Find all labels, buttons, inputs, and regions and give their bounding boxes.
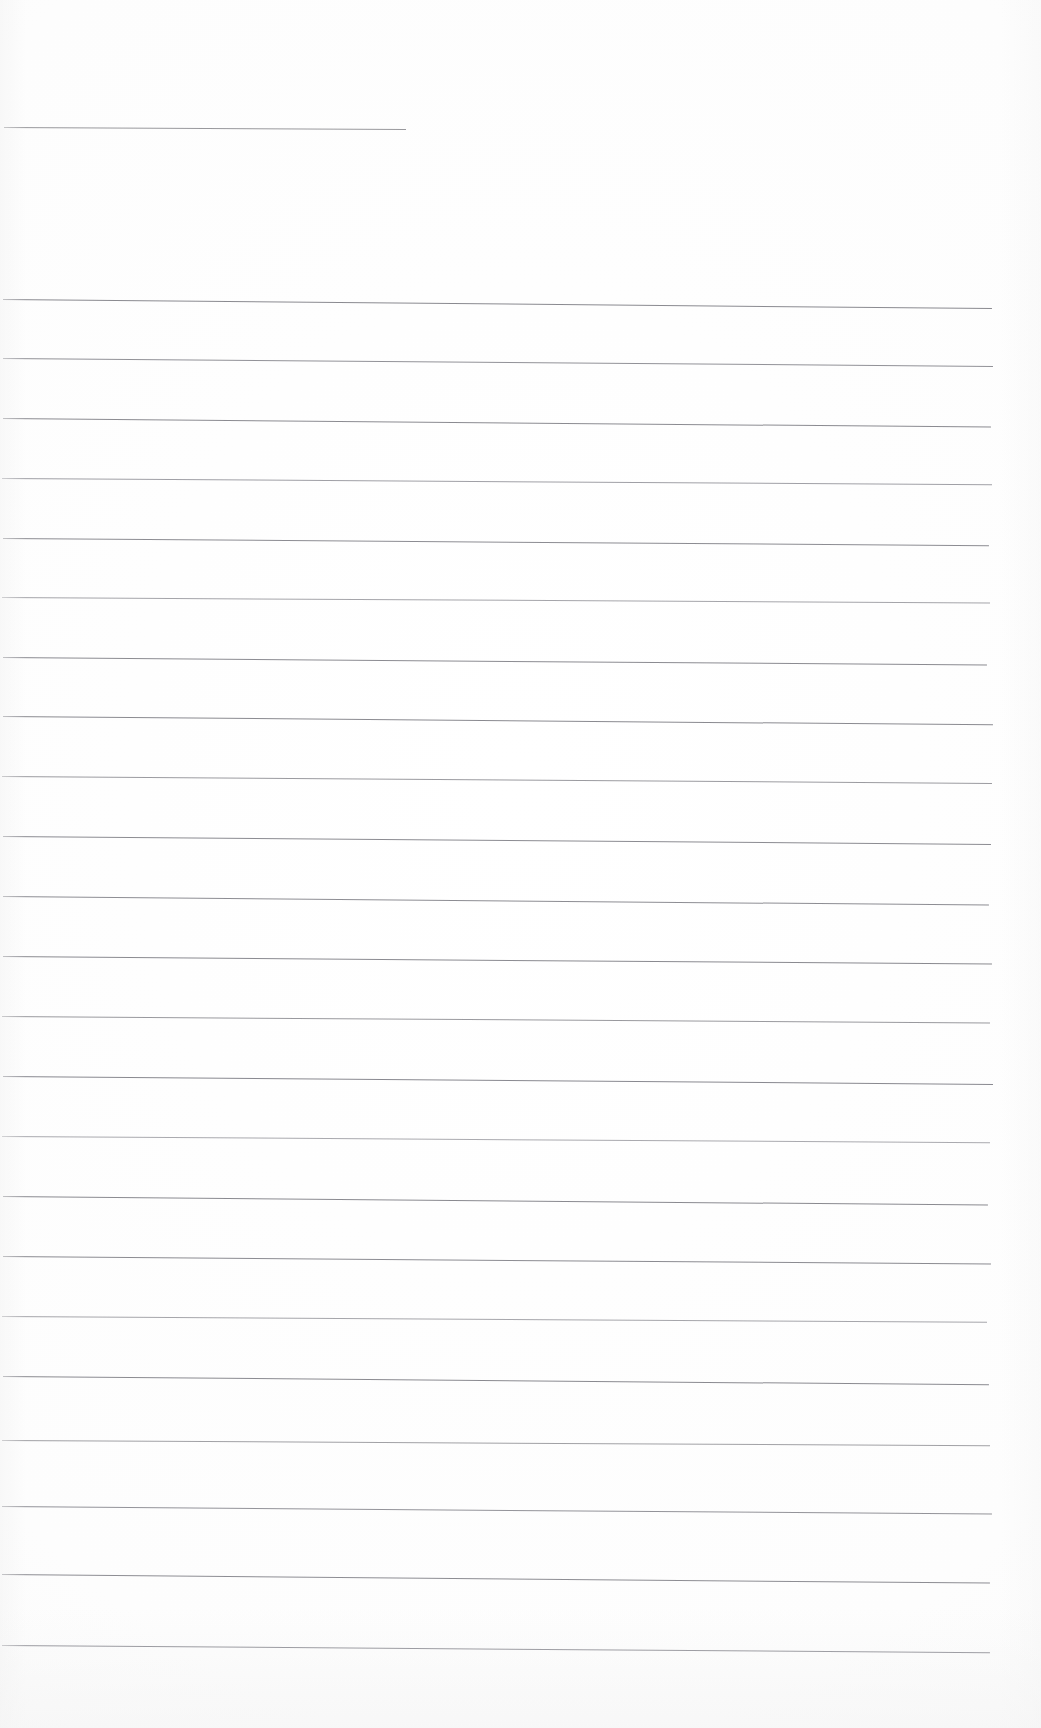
ruled-line — [3, 657, 987, 666]
ruled-line — [2, 1136, 990, 1143]
ruled-line — [2, 776, 992, 784]
ruled-line — [3, 1256, 991, 1265]
ruled-line — [3, 716, 993, 725]
ruled-line — [3, 358, 993, 367]
scanned-page — [0, 0, 1041, 1728]
ruled-line — [2, 1016, 990, 1024]
ruled-line — [2, 478, 992, 485]
ruled-lines-layer — [0, 0, 1041, 1728]
ruled-line — [3, 1376, 989, 1385]
ruled-line — [2, 1316, 987, 1323]
ruled-line — [2, 1645, 990, 1653]
ruled-line — [3, 836, 991, 845]
ruled-line — [2, 1506, 992, 1515]
ruled-line — [3, 418, 991, 428]
ruled-line — [3, 299, 992, 309]
ruled-line — [2, 597, 990, 604]
ruled-line — [4, 127, 406, 130]
ruled-line — [3, 956, 992, 965]
ruled-line — [3, 896, 989, 906]
ruled-line — [3, 538, 989, 546]
ruled-line — [3, 1196, 988, 1206]
ruled-line — [2, 1440, 990, 1446]
ruled-line — [2, 1574, 990, 1584]
ruled-line — [3, 1076, 993, 1085]
